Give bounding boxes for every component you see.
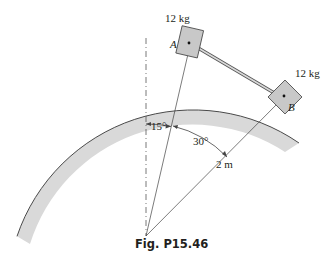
figure-caption: Fig. P15.46	[135, 237, 208, 251]
block-b-mass-label: 12 kg	[295, 67, 320, 79]
block-b-center-dot	[283, 95, 286, 98]
radius-line-a	[146, 41, 191, 236]
angle-30-label: 30°	[193, 135, 208, 147]
block-a-label: A	[169, 38, 177, 50]
radius-label: 2 m	[216, 158, 233, 170]
block-a-center-dot	[188, 42, 191, 45]
angle-15-label: 15°	[151, 120, 166, 132]
block-b	[268, 80, 302, 114]
block-b-label: B	[288, 101, 295, 113]
block-a-mass-label: 12 kg	[165, 12, 190, 24]
figure-diagram: 12 kg A 12 kg B 15° 30° 2 m Fig. P15.46	[0, 0, 332, 258]
